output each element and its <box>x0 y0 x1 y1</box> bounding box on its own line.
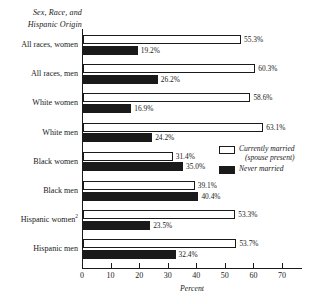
legend-swatch-never-married <box>219 166 235 174</box>
bar-currently-married-1 <box>83 35 241 44</box>
x-axis-tick-60 <box>253 263 254 269</box>
bar-never-married-7 <box>83 221 150 230</box>
bar-value-never-married-2: 26.2% <box>158 75 180 84</box>
x-axis-title: Percent <box>82 284 302 293</box>
bar-value-never-married-8: 32.4% <box>176 250 198 259</box>
x-axis-tick-label-50: 50 <box>213 271 237 280</box>
category-label-5: Black women <box>0 157 78 166</box>
bar-currently-married-8 <box>83 239 236 248</box>
legend-label-currently-married: Currently married <box>239 144 295 153</box>
bar-never-married-3 <box>83 104 131 113</box>
category-label-4: White men <box>0 128 78 137</box>
bar-value-currently-married-8: 53.7% <box>236 239 258 248</box>
legend-label-spouse-present: (spouse present) <box>239 153 295 162</box>
bar-currently-married-7 <box>83 210 235 219</box>
bar-never-married-8 <box>83 250 176 259</box>
category-label-1: All races, women <box>0 40 78 49</box>
bar-currently-married-5 <box>83 152 173 161</box>
bar-value-never-married-1: 19.2% <box>138 46 160 55</box>
x-axis-tick-40 <box>196 263 197 269</box>
x-axis-tick-label-40: 40 <box>184 271 208 280</box>
bar-value-currently-married-1: 55.3% <box>241 35 263 44</box>
bar-never-married-2 <box>83 75 158 84</box>
chart-row-header: Sex, Race, and Hispanic Origin <box>12 7 82 30</box>
bar-value-currently-married-6: 39.1% <box>195 181 217 190</box>
bar-never-married-5 <box>83 162 183 171</box>
x-axis-tick-label-10: 10 <box>99 271 123 280</box>
bar-value-currently-married-7: 53.3% <box>235 210 257 219</box>
x-axis-tick-30 <box>168 263 169 269</box>
x-axis-line <box>82 268 302 269</box>
bar-never-married-1 <box>83 46 138 55</box>
bar-never-married-6 <box>83 192 198 201</box>
category-label-7: Hispanic women2 <box>0 215 78 224</box>
bar-currently-married-3 <box>83 93 250 102</box>
legend-item-currently-married: Currently married (spouse present) <box>219 144 295 162</box>
chart-container: Sex, Race, and Hispanic Origin 010203040… <box>0 0 325 304</box>
x-axis-tick-label-20: 20 <box>127 271 151 280</box>
category-label-2: All races, men <box>0 69 78 78</box>
category-label-6: Black men <box>0 186 78 195</box>
category-label-3: White women <box>0 98 78 107</box>
x-axis-tick-70 <box>282 263 283 269</box>
x-axis-tick-label-0: 0 <box>70 271 94 280</box>
bar-currently-married-2 <box>83 64 255 73</box>
bar-never-married-4 <box>83 133 152 142</box>
category-label-footnote-7: 2 <box>75 214 78 220</box>
legend-label-never-married: Never married <box>239 164 284 173</box>
category-label-8: Hispanic men <box>0 244 78 253</box>
bar-value-currently-married-2: 60.3% <box>255 64 277 73</box>
bar-value-never-married-5: 35.0% <box>183 162 205 171</box>
bar-value-currently-married-4: 63.1% <box>263 123 285 132</box>
x-axis-tick-50 <box>225 263 226 269</box>
bar-value-never-married-3: 16.9% <box>131 104 153 113</box>
x-axis-tick-label-60: 60 <box>241 271 265 280</box>
bar-value-currently-married-5: 31.4% <box>173 152 195 161</box>
x-axis-tick-10 <box>111 263 112 269</box>
bar-value-currently-married-3: 58.6% <box>250 93 272 102</box>
chart-legend: Currently married (spouse present) Never… <box>219 144 295 176</box>
bar-currently-married-6 <box>83 181 195 190</box>
legend-item-never-married: Never married <box>219 164 295 174</box>
header-line-2: Hispanic Origin <box>12 19 82 31</box>
bar-value-never-married-7: 23.5% <box>150 221 172 230</box>
x-axis-tick-label-30: 30 <box>156 271 180 280</box>
x-axis-tick-0 <box>82 263 83 269</box>
x-axis-tick-label-70: 70 <box>270 271 294 280</box>
bar-value-never-married-4: 24.2% <box>152 133 174 142</box>
x-axis-tick-20 <box>139 263 140 269</box>
legend-swatch-currently-married <box>219 146 235 154</box>
bar-value-never-married-6: 40.4% <box>198 192 220 201</box>
header-line-1: Sex, Race, and <box>12 7 82 19</box>
bar-currently-married-4 <box>83 123 263 132</box>
legend-label-currently-married-wrap: Currently married (spouse present) <box>239 144 295 162</box>
